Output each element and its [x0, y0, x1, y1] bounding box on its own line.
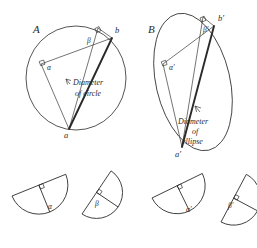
vertex-label-b-prime: b': [218, 13, 224, 23]
sector-beta-group: [82, 171, 133, 229]
sector-beta-label: β: [94, 199, 99, 208]
panel-label-a: A: [32, 23, 40, 35]
caption-diameter-ellipse-line3: ellipse: [182, 137, 203, 146]
panel-label-b: B: [148, 23, 155, 35]
sector-alpha-label: α: [48, 202, 53, 211]
chord-aprime-left: [163, 64, 182, 147]
angle-label-alpha: α: [47, 63, 52, 72]
panel-b-group: B a' b' α' β' Diameter of ellipse: [141, 5, 245, 159]
caption-diameter-ellipse-line1: Diameter: [177, 117, 209, 126]
diameter-pointer-arrow-b: [195, 106, 201, 112]
sector-beta-prime-label: β': [227, 201, 234, 210]
geometry-figure-svg: A a b α β Diameter of circle: [0, 0, 257, 248]
angle-label-alpha-prime: α': [169, 63, 175, 72]
vertex-label-b: b: [115, 25, 119, 35]
panel-a-group: A a b α β Diameter of circle: [26, 23, 126, 140]
sector-alpha-prime-label: α': [186, 205, 192, 214]
sector-beta-prime-outline: [221, 174, 257, 234]
caption-diameter-circle-line2: of circle: [75, 89, 102, 98]
sector-alpha-prime-right-angle-mark: [177, 184, 182, 189]
vertex-label-a: a: [64, 130, 68, 140]
angle-label-beta: β: [86, 36, 91, 45]
caption-diameter-ellipse-line2: of: [192, 127, 200, 136]
sector-alpha-group: [12, 174, 77, 223]
figure-root: A a b α β Diameter of circle: [0, 0, 257, 248]
sector-beta-prime-group: [221, 174, 257, 234]
vertex-label-a-prime: a': [175, 149, 181, 159]
sector-alpha-prime-group: [152, 173, 215, 223]
angle-label-beta-prime: β': [202, 25, 209, 34]
caption-diameter-circle-line1: Diameter: [72, 78, 104, 87]
diameter-pointer-arrow: [66, 79, 71, 85]
